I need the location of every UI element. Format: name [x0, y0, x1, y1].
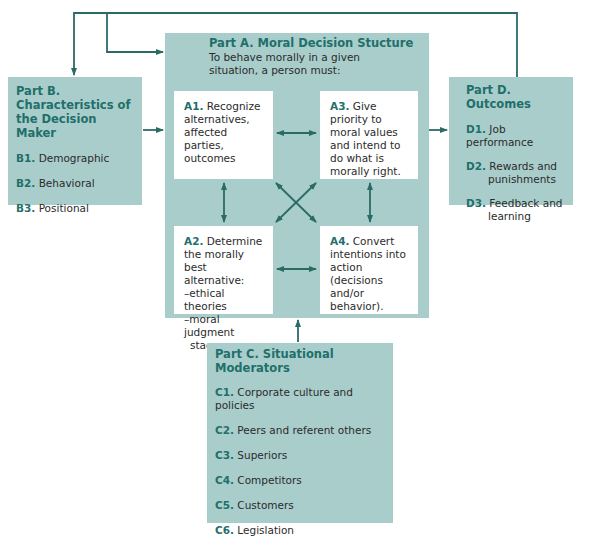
item-code: C4. — [215, 474, 234, 486]
a2-bullet: –moral judgment — [184, 313, 265, 339]
part-a-subtitle: To behave morally in a given situation, … — [209, 51, 404, 77]
part-c-title: Part C. Situational Moderators — [215, 347, 385, 375]
a2-box: A2. Determine the morally best alternati… — [174, 226, 273, 314]
list-item: D3. Feedback and learning — [466, 197, 565, 223]
part-d-title: Part D. Outcomes — [466, 83, 565, 111]
list-item: C4. Competitors — [215, 474, 385, 487]
list-item: B1. Demographic — [16, 152, 134, 165]
item-text: Competitors — [237, 474, 301, 486]
part-d-panel: Part D. Outcomes D1. Job performance D2.… — [449, 77, 573, 205]
a2-bullet: –ethical theories — [184, 287, 265, 313]
item-code: C3. — [215, 449, 234, 461]
item-code: C1. — [215, 386, 234, 398]
item-code: C6. — [215, 524, 234, 536]
a2-code: A2. — [184, 235, 203, 247]
list-item: C2. Peers and referent others — [215, 424, 385, 437]
item-text: Superiors — [237, 449, 287, 461]
list-item: C3. Superiors — [215, 449, 385, 462]
a1-box: A1. Recognize alternatives, affected par… — [174, 91, 273, 179]
item-code: B1. — [16, 152, 35, 164]
item-code: B2. — [16, 177, 35, 189]
item-code: C2. — [215, 424, 234, 436]
list-item: C6. Legislation — [215, 524, 385, 537]
item-text: Demographic — [39, 152, 110, 164]
list-item: C1. Corporate culture and policies — [215, 386, 385, 412]
part-b-title: Part B. Characteristics of the Decision … — [16, 84, 134, 140]
list-item: C5. Customers — [215, 499, 385, 512]
list-item: D1. Job performance — [466, 123, 565, 149]
item-code: D3. — [466, 197, 486, 209]
list-item: D2. Rewards and punishments — [466, 160, 565, 186]
item-text: Legislation — [237, 524, 294, 536]
item-text: Behavioral — [39, 177, 95, 189]
a4-box: A4. Convert intentions into action (deci… — [320, 226, 418, 314]
a4-code: A4. — [330, 235, 349, 247]
item-code: D1. — [466, 123, 486, 135]
item-text: Customers — [237, 499, 293, 511]
part-b-panel: Part B. Characteristics of the Decision … — [8, 77, 142, 205]
a3-code: A3. — [330, 100, 349, 112]
list-item: B3. Positional — [16, 202, 134, 215]
a3-box: A3. Give priority to moral values and in… — [320, 91, 418, 179]
list-item: B2. Behavioral — [16, 177, 134, 190]
item-text: Rewards and punishments — [488, 160, 557, 185]
a1-code: A1. — [184, 100, 203, 112]
item-code: B3. — [16, 202, 35, 214]
item-text: Peers and referent others — [237, 424, 371, 436]
item-code: D2. — [466, 160, 486, 172]
feedback-to-a-arrow — [107, 13, 163, 52]
part-c-panel: Part C. Situational Moderators C1. Corpo… — [207, 343, 393, 523]
item-text: Feedback and learning — [488, 197, 562, 222]
item-code: C5. — [215, 499, 234, 511]
item-text: Corporate culture and policies — [215, 386, 353, 411]
item-text: Positional — [39, 202, 89, 214]
part-a-title: Part A. Moral Decision Stucture — [209, 36, 429, 50]
